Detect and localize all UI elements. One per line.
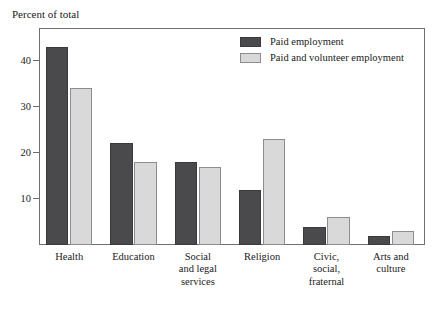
legend-label: Paid and volunteer employment	[270, 52, 404, 63]
legend-swatch-light	[240, 53, 261, 63]
y-axis-tick	[33, 106, 39, 107]
chart-legend: Paid employmentPaid and volunteer employ…	[232, 30, 420, 70]
plot-frame-top-border	[39, 28, 425, 29]
y-axis-tick-label: 30	[0, 101, 31, 112]
bar	[263, 139, 286, 245]
bar	[303, 227, 326, 245]
y-axis-tick	[33, 60, 39, 61]
bar	[46, 47, 69, 245]
x-axis-category-label: Health	[37, 251, 101, 263]
bar	[239, 190, 262, 245]
bar	[70, 88, 93, 245]
y-axis-tick	[33, 152, 39, 153]
y-axis-tick	[33, 198, 39, 199]
chart-axis-title: Percent of total	[12, 8, 79, 21]
legend-swatch-dark	[240, 37, 261, 47]
y-axis-tick-label: 40	[0, 55, 31, 66]
bar	[368, 236, 391, 245]
legend-label: Paid employment	[270, 36, 344, 47]
legend-item: Paid employment	[240, 34, 420, 49]
y-axis-tick-label: 20	[0, 147, 31, 158]
x-axis-category-label: Civic, social, fraternal	[294, 251, 358, 288]
bar	[110, 143, 133, 245]
bar	[134, 162, 157, 245]
bar	[175, 162, 198, 245]
y-axis-tick-label: 10	[0, 193, 31, 204]
bar	[199, 167, 222, 245]
x-axis-category-label: Arts and culture	[359, 251, 423, 276]
bar-chart: Percent of total 10203040 HealthEducatio…	[0, 0, 444, 314]
bar	[392, 231, 415, 245]
legend-item: Paid and volunteer employment	[240, 50, 420, 65]
plot-frame-right-border	[424, 28, 425, 245]
bar	[327, 217, 350, 245]
x-axis-category-label: Social and legal services	[166, 251, 230, 288]
x-axis-category-label: Religion	[230, 251, 294, 263]
x-axis-category-label: Education	[101, 251, 165, 263]
